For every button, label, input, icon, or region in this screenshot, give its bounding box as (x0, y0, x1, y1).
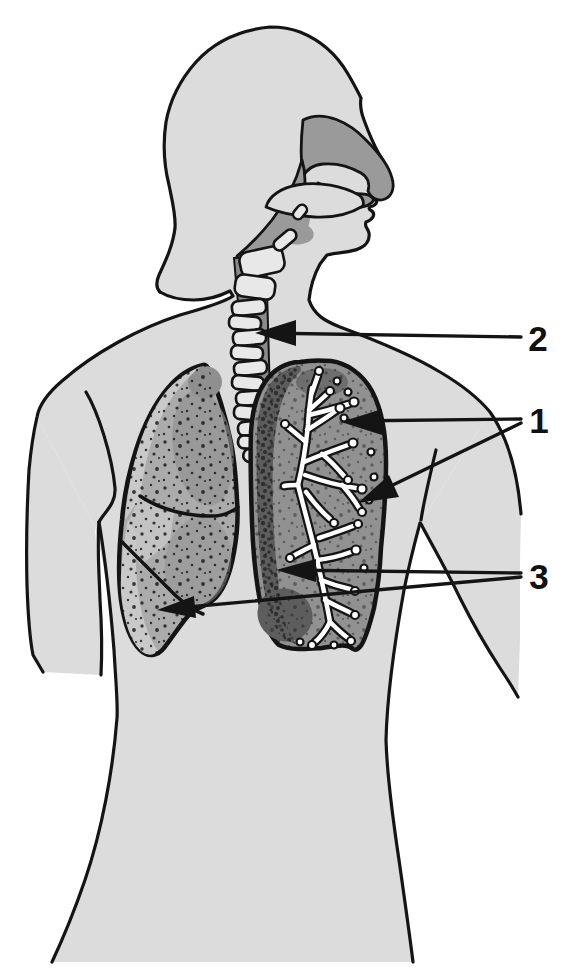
alveoli-knob (368, 449, 375, 456)
larynx-cartilage (234, 273, 277, 300)
diagram-page: 1 2 3 (0, 0, 561, 978)
cartilage-ring (231, 345, 264, 361)
alveoli-knob (326, 387, 334, 395)
alveoli-knob (286, 554, 294, 562)
alveoli-knob (331, 642, 338, 649)
alveoli-knob (352, 546, 361, 555)
alveoli-knob (336, 404, 345, 413)
alveoli-knob (347, 637, 355, 645)
respiratory-system-diagram: 1 2 3 (0, 0, 561, 978)
alveoli-knob (358, 508, 366, 516)
label-1: 1 (529, 401, 548, 440)
alveoli-knob (358, 485, 367, 494)
label-2: 2 (528, 319, 547, 358)
alveoli-knob (281, 420, 289, 428)
labels: 1 2 3 (528, 319, 548, 596)
alveoli-knob (330, 519, 338, 527)
alveoli-knob (315, 367, 323, 375)
alveoli-knob (334, 378, 341, 385)
alveoli-knob (297, 639, 304, 646)
alveoli-knob (344, 476, 352, 484)
alveoli-knob (354, 520, 362, 528)
left-lung (248, 360, 386, 651)
alveoli-knob (351, 611, 359, 619)
label-3: 3 (529, 557, 548, 596)
alveoli-knob (349, 439, 358, 448)
alveoli-knob (371, 474, 378, 481)
alveoli-knob (308, 641, 316, 649)
alveoli-knob (350, 398, 359, 407)
alveoli-knob (345, 389, 352, 396)
